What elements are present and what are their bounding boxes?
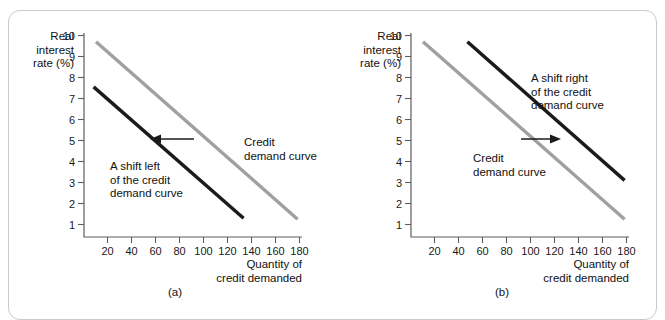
shift-right-arrow-b (521, 135, 561, 144)
svg-text:2: 2 (396, 198, 402, 210)
panel-caption-a: (a) (160, 286, 190, 298)
y-ticks-a: 10 9 8 7 6 5 4 3 2 1 (63, 30, 84, 231)
svg-text:180: 180 (290, 245, 308, 257)
svg-text:8: 8 (396, 72, 402, 84)
chart-panel-a: Real interest rate (%) 10 9 8 7 6 5 4 3 … (0, 0, 332, 304)
svg-text:7: 7 (69, 93, 75, 105)
svg-text:20: 20 (428, 245, 440, 257)
svg-text:4: 4 (396, 156, 402, 168)
svg-text:120: 120 (545, 245, 563, 257)
svg-text:160: 160 (593, 245, 611, 257)
svg-text:20: 20 (101, 245, 113, 257)
svg-text:120: 120 (218, 245, 236, 257)
svg-text:40: 40 (125, 245, 137, 257)
x-axis-label-a: Quantity of credit demanded (180, 258, 302, 285)
svg-text:5: 5 (396, 135, 402, 147)
panel-caption-b: (b) (487, 286, 517, 298)
svg-text:80: 80 (173, 245, 185, 257)
svg-text:6: 6 (396, 114, 402, 126)
svg-text:80: 80 (500, 245, 512, 257)
chart-panel-b: Real interest rate (%) 10 9 8 7 6 5 4 3 … (327, 0, 659, 304)
annotation-shift-a: A shift left of the credit demand curve (110, 160, 220, 201)
svg-text:10: 10 (390, 30, 402, 42)
svg-text:9: 9 (396, 51, 402, 63)
svg-text:3: 3 (69, 177, 75, 189)
svg-text:10: 10 (63, 30, 75, 42)
axis-lines-a (84, 33, 302, 237)
svg-text:60: 60 (476, 245, 488, 257)
svg-text:60: 60 (149, 245, 161, 257)
svg-text:9: 9 (69, 51, 75, 63)
y-ticks-b: 10 9 8 7 6 5 4 3 2 1 (390, 30, 411, 231)
svg-text:1: 1 (396, 219, 402, 231)
svg-text:180: 180 (617, 245, 635, 257)
svg-text:140: 140 (569, 245, 587, 257)
svg-text:2: 2 (69, 198, 75, 210)
svg-text:7: 7 (396, 93, 402, 105)
svg-text:160: 160 (266, 245, 284, 257)
svg-text:5: 5 (69, 135, 75, 147)
credit-demand-curve-b (423, 42, 625, 219)
svg-text:40: 40 (452, 245, 464, 257)
svg-text:100: 100 (194, 245, 212, 257)
svg-text:100: 100 (521, 245, 539, 257)
annotation-shift-b: A shift right of the credit demand curve (531, 72, 643, 113)
axis-lines-b (411, 33, 629, 237)
annotation-curve-b: Credit demand curve (473, 152, 573, 179)
x-ticks-b: 20 40 60 80 100 120 140 160 180 (428, 237, 635, 257)
svg-text:4: 4 (69, 156, 75, 168)
svg-text:6: 6 (69, 114, 75, 126)
svg-text:140: 140 (242, 245, 260, 257)
x-axis-label-b: Quantity of credit demanded (507, 258, 629, 285)
svg-text:8: 8 (69, 72, 75, 84)
x-ticks-a: 20 40 60 80 100 120 140 160 180 (101, 237, 308, 257)
svg-text:1: 1 (69, 219, 75, 231)
svg-text:3: 3 (396, 177, 402, 189)
